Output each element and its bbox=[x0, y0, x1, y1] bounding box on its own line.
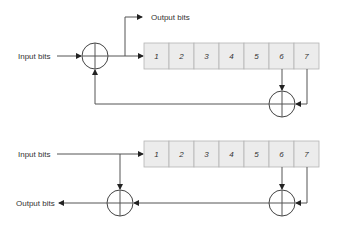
top-input-label: Input bits bbox=[18, 52, 50, 61]
top-xor-icon bbox=[82, 43, 108, 69]
bottom-input-label: Input bits bbox=[18, 150, 50, 159]
bottom-cell-6: 6 bbox=[279, 150, 284, 159]
top-cell-3: 3 bbox=[204, 52, 209, 61]
top-feedback-arrow bbox=[95, 70, 269, 104]
bottom-cell-3: 3 bbox=[204, 150, 209, 159]
bottom-output-xor-icon bbox=[107, 190, 133, 216]
bottom-tap-7-arrow bbox=[296, 167, 307, 203]
top-cell-4: 4 bbox=[229, 52, 234, 61]
bottom-cell-1: 1 bbox=[154, 150, 158, 159]
bottom-output-label: Output bits bbox=[16, 199, 55, 208]
bottom-diagram: Input bits 1 2 3 4 5 6 7 bbox=[16, 141, 319, 216]
bottom-cell-4: 4 bbox=[229, 150, 234, 159]
bottom-tap-xor-icon bbox=[269, 190, 295, 216]
bottom-cell-7: 7 bbox=[304, 150, 309, 159]
top-cell-7: 7 bbox=[304, 52, 309, 61]
top-cell-2: 2 bbox=[178, 52, 184, 61]
top-cell-5: 5 bbox=[254, 52, 259, 61]
scrambler-diagram: Input bits Output bits 1 2 3 4 5 bbox=[0, 0, 337, 228]
top-shift-register: 1 2 3 4 5 6 7 bbox=[144, 43, 319, 69]
top-output-arrow bbox=[125, 17, 142, 56]
top-diagram: Input bits Output bits 1 2 3 4 5 bbox=[18, 13, 319, 117]
top-tap-xor-icon bbox=[269, 91, 295, 117]
top-cell-6: 6 bbox=[279, 52, 284, 61]
top-output-label: Output bits bbox=[151, 13, 190, 22]
bottom-cell-2: 2 bbox=[178, 150, 184, 159]
bottom-cell-5: 5 bbox=[254, 150, 259, 159]
top-cell-1: 1 bbox=[154, 52, 158, 61]
bottom-shift-register: 1 2 3 4 5 6 7 bbox=[144, 141, 319, 167]
top-tap-7-arrow bbox=[296, 69, 307, 104]
